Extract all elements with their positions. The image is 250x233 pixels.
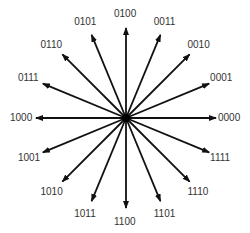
point-label: 0101 — [74, 17, 96, 27]
point-label: 1100 — [114, 217, 136, 227]
point-label: 0011 — [154, 17, 176, 27]
point-label: 1001 — [18, 153, 40, 163]
point-label: 0010 — [188, 40, 210, 50]
point-label: 1010 — [41, 187, 63, 197]
point-label: 1011 — [74, 209, 96, 219]
point-label: 0100 — [114, 9, 136, 19]
point-label: 0001 — [210, 73, 232, 83]
point-label: 1000 — [10, 113, 32, 123]
arrow-0110 — [62, 54, 126, 118]
arrow-0010 — [126, 54, 190, 118]
point-label: 1111 — [210, 153, 230, 163]
phase-diagram: 0000000100100011010001010110011110001001… — [0, 0, 250, 233]
point-label: 0000 — [218, 113, 240, 123]
arrow-1110 — [126, 118, 190, 182]
point-label: 1101 — [154, 209, 176, 219]
point-label: 1110 — [188, 187, 209, 197]
arrow-star-graphic — [0, 0, 250, 233]
point-label: 0111 — [18, 73, 39, 83]
center-dot — [122, 114, 130, 122]
point-label: 0110 — [41, 40, 63, 50]
arrow-1010 — [62, 118, 126, 182]
